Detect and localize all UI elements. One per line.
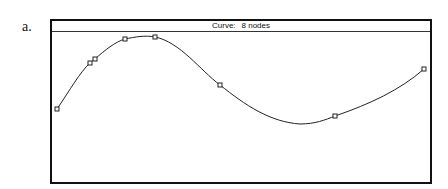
curve-node-handle[interactable] (55, 107, 59, 111)
curve-node-handle[interactable] (422, 67, 426, 71)
curve-node-handle[interactable] (153, 35, 157, 39)
curve-node-handle[interactable] (123, 37, 127, 41)
curve-node-handle[interactable] (333, 114, 337, 118)
curve-node-handle[interactable] (218, 83, 222, 87)
curve-nodes (55, 35, 426, 118)
curve-node-handle[interactable] (93, 57, 97, 61)
curve-node-handle[interactable] (88, 61, 92, 65)
curve-path[interactable] (57, 36, 424, 124)
curve-canvas[interactable] (0, 0, 448, 189)
